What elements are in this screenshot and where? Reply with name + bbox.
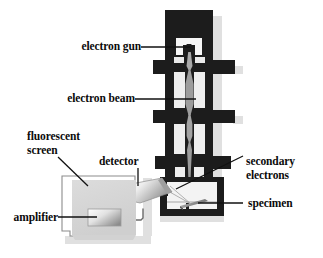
label-specimen: specimen — [248, 197, 322, 210]
label-secondary-electrons-line2: electrons — [246, 169, 322, 182]
condenser-lens-2-left-flange — [153, 110, 167, 123]
monitor-face — [72, 180, 136, 235]
sem-diagram-figure: electron gun electron beam fluorescent s… — [0, 0, 323, 258]
label-amplifier: amplifier — [2, 211, 58, 224]
condenser-lens-2-right-flange — [211, 110, 235, 123]
label-secondary-electrons-line1: secondary — [246, 155, 322, 168]
label-electron-beam: electron beam — [38, 92, 135, 105]
fluorescent-screen-monitor — [62, 176, 136, 240]
specimen-chamber — [160, 177, 224, 216]
label-fluorescent-screen-line1: fluorescent — [27, 130, 123, 143]
label-electron-gun: electron gun — [57, 40, 141, 53]
monitor-base-notch — [72, 235, 136, 240]
label-detector: detector — [99, 155, 159, 168]
condenser-lens-1-left-flange — [153, 60, 167, 74]
condenser-lens-1-right-flange — [211, 60, 235, 74]
